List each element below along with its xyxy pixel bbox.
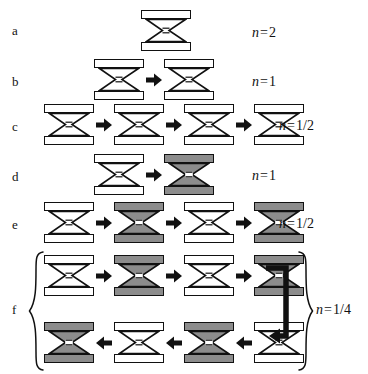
spool-symbol[interactable] xyxy=(164,59,214,100)
n-equals: = xyxy=(287,118,295,133)
diagram-row-e: e xyxy=(0,201,368,247)
n-equals: = xyxy=(287,216,295,231)
spool-symbol[interactable] xyxy=(44,104,94,145)
n-label-a: n= 2 xyxy=(252,26,276,40)
spool-waist xyxy=(98,67,140,92)
transition-arrow-left-icon xyxy=(94,334,114,352)
spool-symbol[interactable] xyxy=(184,322,234,363)
figure-canvas: a n= 2 b xyxy=(0,0,368,374)
spool-waist xyxy=(145,18,187,43)
spool-waist xyxy=(168,162,210,187)
spool-symbol[interactable] xyxy=(184,104,234,145)
spool-symbol[interactable] xyxy=(184,255,234,296)
spool-bottom-bar xyxy=(94,186,144,195)
n-variable: n xyxy=(252,74,260,89)
spool-symbol[interactable] xyxy=(94,154,144,195)
spool-bottom-bar xyxy=(184,354,234,363)
spool-bottom-bar xyxy=(44,287,94,296)
spool-waist xyxy=(48,210,90,235)
spool-symbol[interactable] xyxy=(94,59,144,100)
spool-symbol[interactable] xyxy=(114,255,164,296)
transition-arrow-right-icon xyxy=(164,267,184,285)
transition-arrow-right-icon xyxy=(94,214,114,232)
spool-waist xyxy=(98,162,140,187)
spool-waist xyxy=(48,112,90,137)
n-equals: = xyxy=(260,25,268,40)
spool-bottom-bar xyxy=(184,234,234,243)
n-value: 1/2 xyxy=(296,118,314,133)
transition-arrow-right-icon xyxy=(94,267,114,285)
diagram-row-a: a n= 2 xyxy=(0,6,368,54)
spool-bottom-bar xyxy=(254,234,304,243)
spool-waist xyxy=(188,210,230,235)
spool-bottom-bar xyxy=(164,91,214,100)
transition-arrow-right-icon xyxy=(94,116,114,134)
spool-symbol[interactable] xyxy=(44,255,94,296)
n-variable: n xyxy=(252,168,260,183)
symbol-chain-b xyxy=(94,59,214,100)
n-variable: n xyxy=(279,118,287,133)
row-label-c: c xyxy=(12,120,18,133)
spool-bottom-bar xyxy=(164,186,214,195)
spool-bottom-bar xyxy=(44,354,94,363)
spool-waist xyxy=(118,112,160,137)
transition-arrow-right-icon xyxy=(234,214,254,232)
symbol-chain-f-bottom xyxy=(44,322,304,363)
diagram-row-d: d xyxy=(0,153,368,199)
spool-waist xyxy=(188,112,230,137)
spool-waist xyxy=(188,263,230,288)
spool-symbol[interactable] xyxy=(44,322,94,363)
transition-arrow-right-icon xyxy=(144,71,164,89)
transition-arrow-right-icon xyxy=(164,214,184,232)
spool-symbol[interactable] xyxy=(114,104,164,145)
spool-bottom-bar xyxy=(114,354,164,363)
spool-symbol[interactable] xyxy=(184,202,234,243)
spool-bottom-bar xyxy=(44,234,94,243)
row-label-f: f xyxy=(12,303,16,316)
n-variable: n xyxy=(316,302,324,317)
group-brace-left xyxy=(26,250,46,372)
n-variable: n xyxy=(279,216,287,231)
spool-bottom-bar xyxy=(141,42,191,51)
n-label-c: n= 1/2 xyxy=(279,119,314,133)
spool-symbol[interactable] xyxy=(114,202,164,243)
n-value: 1/4 xyxy=(333,302,351,317)
spool-symbol[interactable] xyxy=(164,154,214,195)
transition-arrow-right-icon xyxy=(234,116,254,134)
n-variable: n xyxy=(252,25,260,40)
n-label-f: n= 1/4 xyxy=(316,303,351,317)
n-value: 1/2 xyxy=(296,216,314,231)
spool-bottom-bar xyxy=(44,136,94,145)
diagram-row-c: c xyxy=(0,103,368,149)
n-value: 2 xyxy=(269,25,276,40)
n-label-e: n= 1/2 xyxy=(279,217,314,231)
spool-waist xyxy=(168,67,210,92)
row-label-a: a xyxy=(12,24,18,37)
spool-waist xyxy=(188,330,230,355)
spool-waist xyxy=(48,263,90,288)
spool-symbol[interactable] xyxy=(141,10,191,51)
spool-waist xyxy=(118,210,160,235)
symbol-chain-f-top xyxy=(44,255,304,296)
transition-arrow-right-icon xyxy=(144,166,164,184)
symbol-chain-e xyxy=(44,202,304,243)
spool-bottom-bar xyxy=(184,136,234,145)
row-label-b: b xyxy=(12,75,19,88)
symbol-chain-a xyxy=(141,10,191,51)
transition-arrow-left-icon xyxy=(164,334,184,352)
transition-arrow-left-icon xyxy=(234,334,254,352)
symbol-chain-c xyxy=(44,104,304,145)
spool-bottom-bar xyxy=(254,136,304,145)
row-label-d: d xyxy=(12,170,19,183)
n-equals: = xyxy=(260,74,268,89)
spool-symbol[interactable] xyxy=(114,322,164,363)
spool-bottom-bar xyxy=(114,287,164,296)
n-equals: = xyxy=(260,168,268,183)
transition-arrow-right-icon xyxy=(164,116,184,134)
symbol-chain-d xyxy=(94,154,214,195)
spool-symbol[interactable] xyxy=(44,202,94,243)
diagram-row-b: b xyxy=(0,57,368,105)
n-equals: = xyxy=(324,302,332,317)
spool-waist xyxy=(48,330,90,355)
n-value: 1 xyxy=(269,74,276,89)
